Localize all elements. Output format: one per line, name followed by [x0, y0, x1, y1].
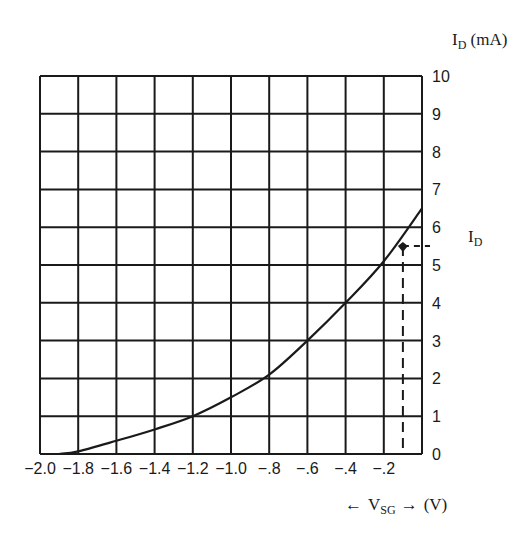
y-tick-label: 6 — [432, 219, 441, 236]
x-tick-label: −1.2 — [177, 460, 209, 477]
y-tick-label: 3 — [432, 333, 441, 350]
x-tick-label: −1.6 — [101, 460, 133, 477]
y-tick-label: 1 — [432, 408, 441, 425]
x-tick-label: −1.8 — [62, 460, 94, 477]
operating-point — [398, 242, 430, 454]
y-tick-label: 7 — [432, 181, 441, 198]
y-axis-title: ID (mA) — [452, 30, 507, 52]
y-tick-label: 0 — [432, 446, 441, 463]
y-tick-label: 9 — [432, 106, 441, 123]
y-tick-label: 10 — [432, 68, 450, 85]
x-tick-label: −.4 — [334, 460, 357, 477]
y-tick-label: 4 — [432, 295, 441, 312]
y-tick-label: 8 — [432, 144, 441, 161]
x-tick-label: −2.0 — [24, 460, 56, 477]
x-axis-title: ←VSG→(V) — [345, 495, 447, 517]
x-tick-label: −.2 — [372, 460, 395, 477]
operating-point-marker — [398, 242, 408, 252]
y-tick-label: 2 — [432, 370, 441, 387]
x-tick-label: −1.0 — [215, 460, 247, 477]
y-tick-labels: 012345678910 — [432, 68, 450, 463]
transfer-characteristic-chart: −2.0−1.8−1.6−1.4−1.2−1.0−.8−.6−.4−.2 012… — [0, 0, 517, 548]
y-tick-label: 5 — [432, 257, 441, 274]
x-tick-labels: −2.0−1.8−1.6−1.4−1.2−1.0−.8−.6−.4−.2 — [24, 460, 395, 477]
x-tick-label: −.8 — [258, 460, 281, 477]
x-tick-label: −.6 — [296, 460, 319, 477]
side-id-label: ID — [468, 227, 483, 249]
x-tick-label: −1.4 — [139, 460, 171, 477]
